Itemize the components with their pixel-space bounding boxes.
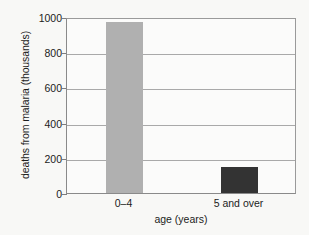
gridline — [67, 54, 295, 55]
y-tick-label: 200 — [22, 153, 62, 165]
y-tick-mark — [62, 194, 67, 195]
gridline — [67, 160, 295, 161]
y-tick-label: 0 — [22, 188, 62, 200]
x-axis-title: age (years) — [66, 213, 296, 225]
y-tick-label: 400 — [22, 118, 62, 130]
x-tick-label: 0–4 — [115, 197, 133, 209]
y-tick-label: 600 — [22, 82, 62, 94]
y-axis-title: deaths from malaria (thousands) — [19, 8, 33, 202]
y-tick-label: 1000 — [22, 12, 62, 24]
gridline — [67, 125, 295, 126]
bar — [106, 22, 143, 193]
bar — [221, 167, 258, 193]
x-tick-label: 5 and over — [214, 197, 264, 209]
gridline — [67, 89, 295, 90]
plot-area — [66, 18, 296, 194]
bar-chart-figure: deaths from malaria (thousands) 02004006… — [0, 0, 309, 235]
y-tick-label: 800 — [22, 47, 62, 59]
